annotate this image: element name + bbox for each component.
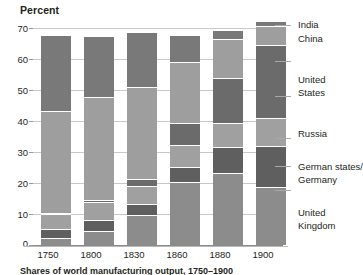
bar-segment-1860-india[interactable]: [170, 36, 200, 63]
bar-segment-1800-russia[interactable]: [84, 203, 114, 220]
y-tick-label-10: 10: [2, 209, 28, 220]
x-tick-label-1880: 1880: [197, 249, 243, 260]
y-tick-label-60: 60: [2, 54, 28, 65]
bar-segment-1880-china[interactable]: [213, 40, 243, 79]
bar-segment-1880-german-states-germany[interactable]: [213, 148, 243, 174]
legend-label-russia: Russia: [298, 128, 327, 139]
bar-segment-1900-russia[interactable]: [256, 119, 286, 146]
y-tick-label-40: 40: [2, 116, 28, 127]
bar-segment-1750-india[interactable]: [41, 36, 71, 112]
bar-segment-1830-united-states[interactable]: [127, 180, 157, 187]
x-tick-label-1900: 1900: [240, 249, 286, 260]
bar-segment-1750-united-kingdom[interactable]: [41, 239, 71, 245]
bar-1830[interactable]: [127, 33, 157, 245]
bar-segment-1830-united-kingdom[interactable]: [127, 216, 157, 245]
bar-segment-1880-india[interactable]: [213, 31, 243, 40]
legend-label-united-states-line2: States: [298, 87, 325, 98]
bar-segment-1860-united-states[interactable]: [170, 124, 200, 146]
x-tick-label-1750: 1750: [25, 249, 71, 260]
legend-leader-germany: [275, 166, 291, 167]
bar-segment-1830-german-states-germany[interactable]: [127, 205, 157, 216]
legend-label-india: India: [298, 19, 319, 30]
bar-segment-1830-china[interactable]: [127, 88, 157, 180]
bar-segment-1900-china[interactable]: [256, 27, 286, 46]
bar-1800[interactable]: [84, 37, 114, 245]
bar-segment-1830-russia[interactable]: [127, 187, 157, 204]
y-tick-label-0: 0: [2, 238, 28, 249]
bar-segment-1880-united-states[interactable]: [213, 79, 243, 125]
legend-leader-china: [275, 61, 291, 62]
bar-segment-1800-united-kingdom[interactable]: [84, 232, 114, 245]
bar-1860[interactable]: [170, 36, 200, 245]
y-tick-label-70: 70: [2, 23, 28, 34]
x-axis-line: [24, 246, 288, 247]
bar-segment-1860-german-states-germany[interactable]: [170, 168, 200, 183]
plot-area: [33, 28, 283, 245]
y-axis-title: Percent: [20, 4, 59, 16]
bar-segment-1880-united-kingdom[interactable]: [213, 174, 243, 245]
legend-label-china: China: [298, 33, 323, 44]
bar-segment-1750-russia[interactable]: [41, 215, 71, 231]
y-tick-label-30: 30: [2, 147, 28, 158]
bar-segment-1860-united-kingdom[interactable]: [170, 183, 200, 245]
legend-leader-russia: [275, 138, 291, 139]
bar-segment-1800-india[interactable]: [84, 37, 114, 98]
legend-label-german-states-line1: German states/: [298, 161, 363, 172]
bar-segment-1900-united-states[interactable]: [256, 46, 286, 119]
gridline-70: [33, 28, 283, 29]
legend-label-german-states-line2: Germany: [298, 174, 337, 185]
legend-leader-us: [275, 96, 291, 97]
bar-segment-1830-india[interactable]: [127, 33, 157, 88]
x-tick-label-1830: 1830: [111, 249, 157, 260]
x-tick-label-1800: 1800: [68, 249, 114, 260]
bar-segment-1800-china[interactable]: [84, 98, 114, 201]
y-tick-label-50: 50: [2, 85, 28, 96]
bar-segment-1900-united-kingdom[interactable]: [256, 188, 286, 245]
bar-1900[interactable]: [256, 22, 286, 245]
bar-segment-1880-russia[interactable]: [213, 124, 243, 148]
bar-segment-1860-china[interactable]: [170, 63, 200, 124]
bar-segment-1750-china[interactable]: [41, 112, 71, 214]
figure-caption: Shares of world manufacturing output, 17…: [20, 266, 233, 275]
legend-label-united-kingdom-line2: Kingdom: [298, 220, 336, 231]
bar-segment-1900-german-states-germany[interactable]: [256, 147, 286, 188]
bar-1880[interactable]: [213, 31, 243, 245]
legend-leader-india: [275, 25, 291, 26]
legend-label-united-kingdom-line1: United: [298, 207, 325, 218]
bar-segment-1750-german-states-germany[interactable]: [41, 230, 71, 239]
legend-leader-uk: [275, 190, 291, 191]
y-tick-label-20: 20: [2, 178, 28, 189]
bar-segment-1860-russia[interactable]: [170, 146, 200, 168]
bar-segment-1800-german-states-germany[interactable]: [84, 221, 114, 232]
legend-label-united-states-line1: United: [298, 74, 325, 85]
x-tick-label-1860: 1860: [154, 249, 200, 260]
bar-1750[interactable]: [41, 36, 71, 245]
